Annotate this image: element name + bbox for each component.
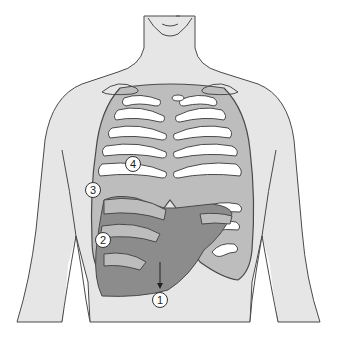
callout-1-label: 1: [157, 294, 163, 306]
callout-2: 2: [96, 233, 111, 248]
callout-2-label: 2: [100, 234, 106, 246]
callout-4: 4: [126, 157, 141, 172]
callout-1: 1: [153, 293, 168, 308]
torso-anatomy-diagram: 1 2 3 4: [0, 0, 337, 340]
callout-3-label: 3: [90, 184, 96, 196]
callout-3: 3: [86, 183, 101, 198]
callout-4-label: 4: [130, 158, 136, 170]
